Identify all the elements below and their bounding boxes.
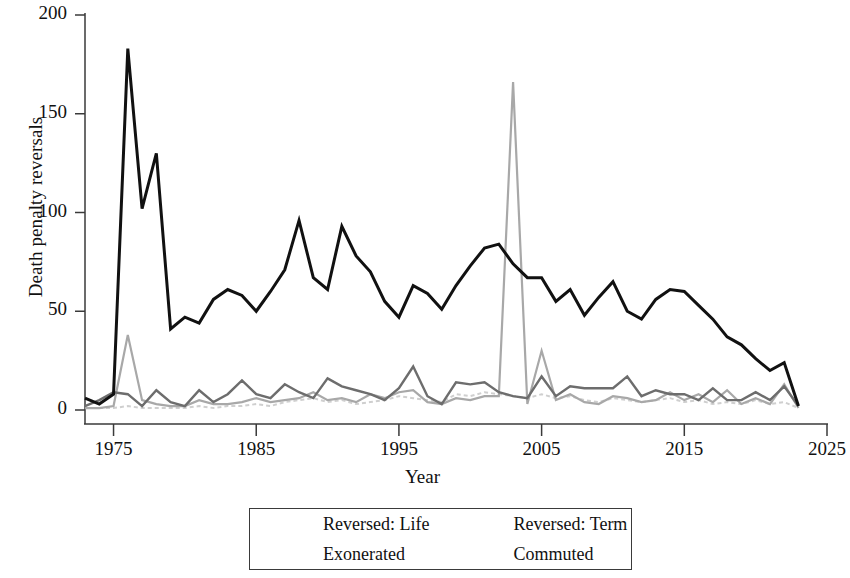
x-tick-label: 1995 bbox=[359, 438, 439, 460]
x-tick-label: 2005 bbox=[502, 438, 582, 460]
legend-label-reversed-term: Reversed: Term bbox=[514, 514, 628, 535]
y-tick-label: 200 bbox=[7, 2, 67, 24]
axis-layer bbox=[75, 13, 828, 436]
x-axis-title: Year bbox=[0, 466, 845, 488]
x-tick-label: 2025 bbox=[787, 438, 850, 460]
legend-item-reversed-term: Reversed: Term bbox=[441, 514, 632, 535]
series-line-exonerated bbox=[85, 82, 798, 408]
x-tick-label: 2015 bbox=[644, 438, 724, 460]
chart-legend: Reversed: Life Reversed: Term Exonerated… bbox=[249, 508, 632, 570]
y-tick-label: 0 bbox=[7, 397, 67, 419]
y-tick-label: 100 bbox=[7, 200, 67, 222]
y-tick-label: 50 bbox=[7, 298, 67, 320]
legend-item-commuted: Commuted bbox=[441, 544, 632, 565]
legend-item-exonerated: Exonerated bbox=[250, 544, 441, 565]
legend-label-commuted: Commuted bbox=[514, 544, 594, 565]
x-tick-label: 1985 bbox=[216, 438, 296, 460]
legend-label-reversed-life: Reversed: Life bbox=[323, 514, 429, 535]
series-line-commuted bbox=[85, 392, 798, 408]
legend-label-exonerated: Exonerated bbox=[323, 544, 405, 565]
y-tick-label: 150 bbox=[7, 101, 67, 123]
series-line-reversed-life bbox=[85, 49, 798, 406]
legend-item-reversed-life: Reversed: Life bbox=[250, 514, 441, 535]
series-layer bbox=[85, 49, 798, 408]
x-tick-label: 1975 bbox=[74, 438, 154, 460]
